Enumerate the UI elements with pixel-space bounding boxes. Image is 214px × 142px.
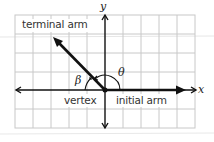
beta-label: β — [75, 74, 81, 87]
vertex-point — [103, 88, 108, 93]
initial-arm-label: initial arm — [116, 94, 167, 106]
vertex-label: vertex — [64, 94, 96, 106]
x-axis-label: x — [198, 83, 204, 96]
theta-label: θ — [118, 66, 125, 79]
beta-arc — [85, 78, 91, 90]
terminal-arm-label: terminal arm — [22, 18, 88, 30]
y-axis-label: y — [100, 0, 106, 13]
